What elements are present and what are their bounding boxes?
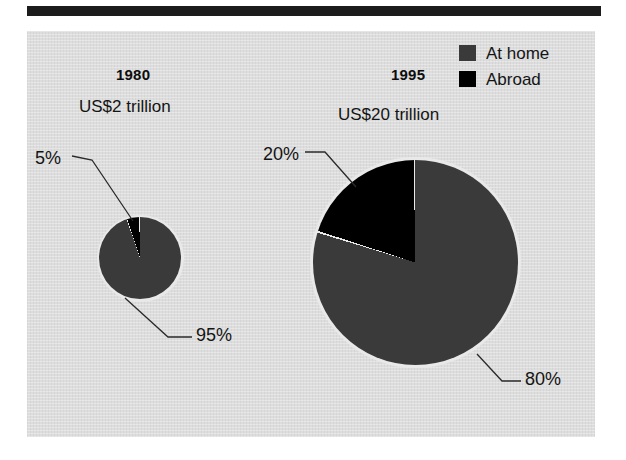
legend-swatch-at-home: [459, 45, 476, 61]
legend-item-at-home[interactable]: At home: [459, 40, 549, 66]
legend-label-at-home: At home: [486, 45, 549, 62]
top-rule-divider: [27, 6, 601, 16]
pie-1995-callout-at-home: 80%: [525, 369, 561, 390]
pie-1980-total-label: US$2 trillion: [79, 97, 171, 117]
pie-1980-year-title: 1980: [116, 66, 150, 83]
pie-1995-chart[interactable]: [313, 160, 518, 365]
pie-1995-total-label: US$20 trillion: [338, 105, 439, 125]
pie-1995-callout-abroad: 20%: [263, 144, 299, 165]
pie-1980-chart[interactable]: [99, 217, 181, 299]
figure-stage: At home Abroad 1980 US$2 trillion 5% 95%…: [0, 0, 626, 460]
pie-1980-callout-at-home: 95%: [196, 325, 232, 346]
legend-swatch-abroad: [459, 71, 476, 87]
legend-item-abroad[interactable]: Abroad: [459, 66, 549, 92]
legend: At home Abroad: [459, 40, 549, 92]
pie-1980-callout-abroad: 5%: [35, 148, 61, 169]
pie-1995-year-title: 1995: [391, 66, 425, 83]
legend-label-abroad: Abroad: [486, 71, 541, 88]
